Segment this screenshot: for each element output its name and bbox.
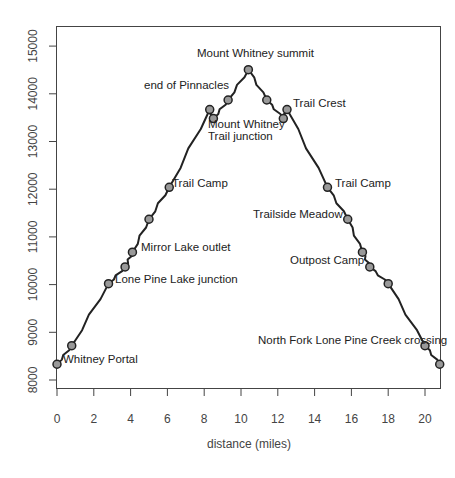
waypoint-marker: [224, 96, 232, 104]
y-tick-label: 15000: [26, 29, 40, 63]
x-tick-label: 10: [234, 412, 248, 426]
waypoint-marker: [53, 360, 61, 368]
waypoint-marker: [323, 183, 331, 191]
label-mount-whitney-trail-junction-2: Trail junction: [208, 130, 273, 142]
waypoint-marker: [145, 215, 153, 223]
elevation-line: [57, 70, 440, 365]
y-axis: 80009000100001100012000130001400015000: [26, 29, 56, 393]
waypoint-marker: [121, 263, 129, 271]
annotations: Whitney Portal Lone Pine Lake junction M…: [63, 47, 447, 365]
label-mirror-lake-outlet: Mirror Lake outlet: [141, 241, 231, 253]
label-trail-camp-descent: Trail Camp: [335, 177, 391, 189]
waypoint-marker: [263, 96, 271, 104]
waypoint-markers: [53, 66, 444, 369]
waypoint-marker: [206, 106, 214, 114]
waypoint-marker: [68, 342, 76, 350]
label-mount-whitney-summit: Mount Whitney summit: [197, 47, 315, 59]
waypoint-marker: [344, 215, 352, 223]
y-tick-label: 11000: [26, 220, 40, 253]
label-whitney-portal: Whitney Portal: [63, 353, 138, 365]
x-tick-label: 16: [345, 412, 359, 426]
waypoint-marker: [366, 263, 374, 271]
waypoint-marker: [244, 66, 252, 74]
label-end-of-pinnacles: end of Pinnacles: [144, 79, 229, 91]
x-tick-label: 6: [164, 412, 171, 426]
waypoint-marker: [128, 248, 136, 256]
x-tick-label: 14: [308, 412, 322, 426]
x-axis-title: distance (miles): [207, 437, 291, 451]
label-trail-camp-ascent: Trail Camp: [172, 177, 228, 189]
waypoint-marker: [384, 280, 392, 288]
waypoint-marker: [283, 106, 291, 114]
x-tick-label: 2: [90, 412, 97, 426]
y-tick-label: 14000: [26, 77, 40, 111]
x-tick-label: 20: [418, 412, 432, 426]
label-trailside-meadow: Trailside Meadow: [253, 208, 343, 220]
label-north-fork-crossing: North Fork Lone Pine Creek crossing: [258, 334, 447, 346]
x-axis: 02468101214161820: [54, 389, 432, 426]
x-tick-label: 8: [201, 412, 208, 426]
x-tick-label: 18: [382, 412, 396, 426]
elevation-profile-chart: 80009000100001100012000130001400015000 0…: [0, 0, 455, 478]
y-tick-label: 12000: [26, 172, 40, 206]
waypoint-marker: [105, 280, 113, 288]
y-tick-label: 10000: [26, 268, 40, 302]
label-trail-crest: Trail Crest: [293, 97, 346, 109]
label-lone-pine-lake-junction: Lone Pine Lake junction: [115, 273, 238, 285]
label-outpost-camp: Outpost Camp: [290, 254, 364, 266]
y-tick-label: 8000: [26, 366, 40, 393]
waypoint-marker: [436, 360, 444, 368]
y-tick-label: 9000: [26, 319, 40, 346]
x-tick-label: 0: [54, 412, 61, 426]
label-mount-whitney-trail-junction-1: Mount Whitney: [208, 118, 285, 130]
x-tick-label: 12: [271, 412, 285, 426]
y-tick-label: 13000: [26, 124, 40, 158]
x-tick-label: 4: [127, 412, 134, 426]
